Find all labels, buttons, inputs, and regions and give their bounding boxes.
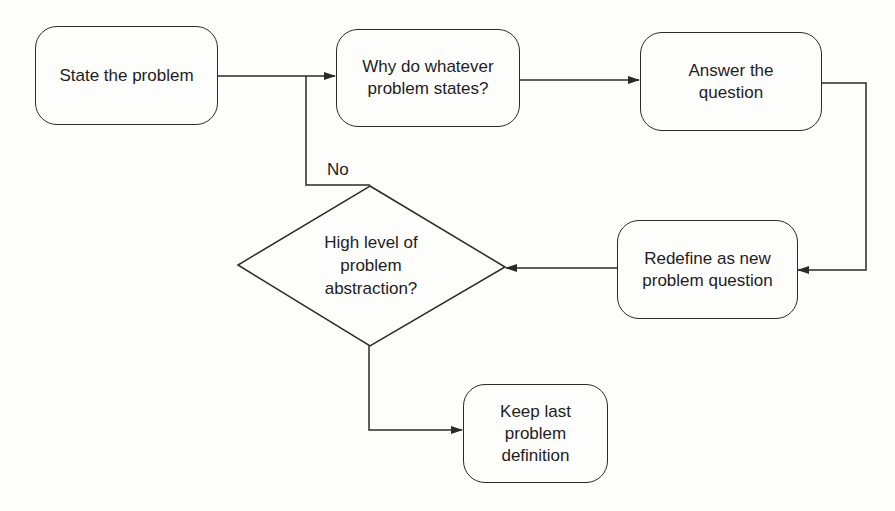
decision-label: High level of problem abstraction? — [290, 231, 452, 300]
node-redefine: Redefine as new problem question — [617, 220, 798, 319]
node-label: Redefine as new problem question — [642, 248, 772, 292]
node-label: Keep last problem definition — [500, 401, 571, 467]
node-label: Answer the question — [688, 60, 773, 104]
node-label: Why do whatever problem states? — [362, 56, 493, 100]
node-keep-last: Keep last problem definition — [463, 384, 608, 483]
node-answer-question: Answer the question — [640, 32, 822, 131]
node-why-question: Why do whatever problem states? — [336, 29, 520, 127]
node-state-the-problem: State the problem — [35, 26, 218, 125]
edge-label-no: No — [327, 160, 349, 180]
node-label: State the problem — [59, 65, 193, 87]
edge-decision-to-keep — [369, 346, 462, 430]
